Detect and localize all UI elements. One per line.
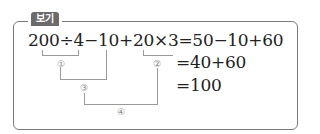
bracket-3-right — [106, 50, 107, 79]
expression-line-3: =100 — [176, 75, 222, 95]
bracket-1-bottom — [42, 55, 79, 56]
bracket-4-bottom — [84, 104, 158, 105]
bracket-4-right — [157, 68, 158, 104]
example-badge: 보기 — [31, 12, 59, 26]
expression-line-1: 200÷4−10+20×3=50−10+60 — [28, 30, 283, 50]
expression-line-2: =40+60 — [176, 52, 246, 72]
step-1-label: ① — [55, 59, 67, 69]
bracket-2-bottom — [143, 55, 173, 56]
step-3-label: ③ — [78, 83, 90, 93]
step-4-label: ④ — [115, 107, 127, 117]
bracket-3-left — [60, 67, 61, 79]
bracket-4-left — [84, 93, 85, 104]
bracket-3-bottom — [60, 79, 107, 80]
